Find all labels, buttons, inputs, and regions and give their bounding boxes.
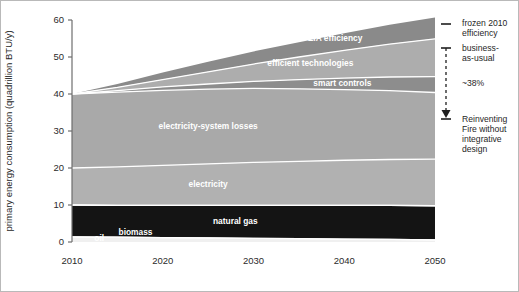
y-tick-label-60: 60 [53,14,64,25]
stacked-area-chart: 010203040506020102020203020402050 EIA ef… [0,0,519,292]
reinventing-fire-text-line-1: Fire without [462,124,507,134]
chart-container: 010203040506020102020203020402050 EIA ef… [0,0,519,292]
reinventing-fire-text-line-2: integrative [462,134,502,144]
x-tick-label-2030: 2030 [243,255,264,266]
band-label-electricity-system-losses: electricity-system losses [159,121,259,131]
band-label-eia-efficiency: EIA efficiency [308,33,363,43]
frozen-2010-efficiency-text-line-0: frozen 2010 [462,18,508,28]
band-label-efficient-technologies: efficient technologies [267,58,353,68]
x-tick-label-2050: 2050 [424,255,445,266]
band-label-natural-gas: natural gas [213,216,258,226]
y-tick-label-40: 40 [53,88,64,99]
business-as-usual-text-line-1: as-usual [462,53,495,63]
reduction-percent-text: ~38% [462,78,485,88]
y-tick-label-20: 20 [53,162,64,173]
business-as-usual-text-line-0: business- [462,43,499,53]
band-label-smart-controls: smart controls [313,78,372,88]
band-label-electricity: electricity [189,179,228,189]
separator-above-natural-gas [72,205,435,206]
band-label-biomass: biomass [119,227,153,237]
x-tick-label-2040: 2040 [334,255,355,266]
y-tick-label-0: 0 [59,236,64,247]
y-tick-label-10: 10 [53,199,64,210]
x-tick-label-2010: 2010 [61,255,82,266]
y-tick-label-50: 50 [53,51,64,62]
reinventing-fire-text-line-0: Reinventing [462,114,508,124]
y-tick-label-30: 30 [53,125,64,136]
x-tick-label-2020: 2020 [152,255,173,266]
y-axis-label: primary energy consumption (quadrillion … [3,30,14,231]
frozen-2010-efficiency-text-line-1: efficiency [462,28,498,38]
band-label-oil: oil [94,233,104,243]
reinventing-fire-text-line-3: design [462,144,488,154]
